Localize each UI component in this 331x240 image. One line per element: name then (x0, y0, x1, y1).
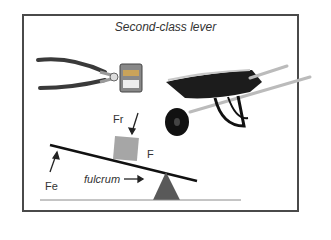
pliers-icon (38, 59, 142, 92)
fulcrum-arrow-icon (124, 176, 143, 182)
wheelbarrow-icon (165, 66, 310, 136)
effort-force-label: Fe (45, 180, 58, 192)
effort-arrow-icon (50, 152, 59, 172)
fulcrum-label: fulcrum (84, 173, 120, 185)
resistance-force-label: Fr (113, 113, 123, 125)
resistance-arrow-icon (129, 113, 138, 134)
load-block (113, 136, 139, 161)
force-label: F (147, 148, 154, 160)
